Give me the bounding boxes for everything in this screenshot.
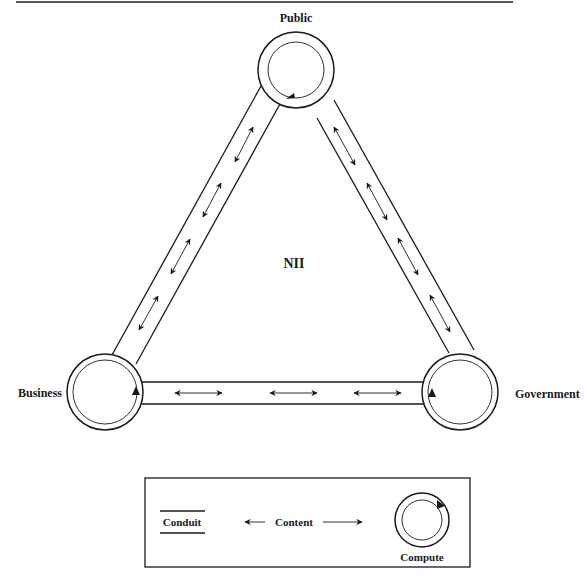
node-business: Business — [18, 354, 143, 430]
node-label-business: Business — [18, 386, 62, 400]
legend: Conduit Content Compute — [145, 478, 470, 567]
legend-compute: Compute — [395, 493, 449, 563]
node-label-public: Public — [280, 11, 313, 25]
node-public: Public — [258, 11, 334, 108]
diagram-title: NII — [283, 256, 304, 271]
conduit-public-business — [112, 86, 280, 364]
legend-compute-label: Compute — [400, 551, 444, 563]
nii-diagram: Public Business Government NII Conduit C… — [0, 0, 587, 585]
content-arrows-left — [139, 127, 253, 330]
legend-content-label: Content — [275, 516, 313, 528]
node-label-government: Government — [515, 387, 580, 401]
content-arrows-right — [334, 127, 450, 332]
legend-conduit-label: Conduit — [163, 516, 202, 528]
conduit-business-government — [142, 382, 424, 404]
conduit-public-government — [317, 100, 474, 353]
node-government: Government — [422, 354, 580, 430]
